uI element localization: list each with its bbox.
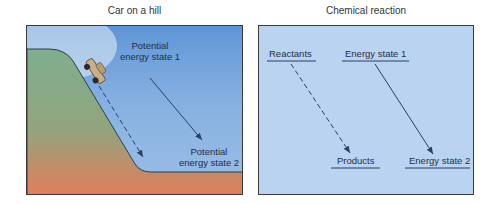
potential-energy-state-2-label: Potential energy state 2 [175,146,243,168]
energy-state-2-label: Energy state 2 [409,155,470,166]
energy-state-1-label: Energy state 1 [345,48,406,59]
potential-energy-state-1-label: Potential energy state 1 [115,40,185,62]
products-label: Products [337,155,375,166]
energy-arrow-right [375,64,433,154]
chemical-reaction-title: Chemical reaction [258,5,474,16]
chemical-reaction-panel: Reactants Energy state 1 Products Energy… [258,25,474,195]
state2-line1: Potential [175,146,243,157]
car-on-hill-title: Car on a hill [26,5,243,16]
state1-line2: energy state 1 [115,51,185,62]
reactants-label: Reactants [269,48,312,59]
reaction-dashed-arrow [291,64,350,153]
state1-line1: Potential [115,40,185,51]
state2-line2: energy state 2 [175,157,243,168]
car-on-hill-panel: Potential energy state 1 Potential energ… [26,25,243,195]
